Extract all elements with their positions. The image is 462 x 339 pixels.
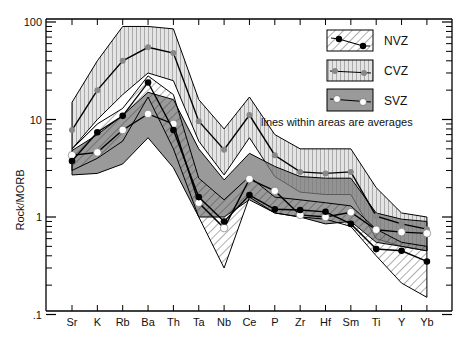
spider-diagram: .1110100 SrKRbBaThTaNbCePZrHfSmTiYYb Roc… [0,0,462,339]
black-circle-marker-icon [69,158,76,165]
gray-circle-marker-icon [399,221,405,227]
x-tick-label: Sm [343,316,360,328]
black-circle-marker-icon [94,129,101,136]
black-circle-marker-icon [170,127,177,134]
black-circle-marker-icon [424,258,431,265]
gray-circle-marker-icon [323,170,329,176]
x-tick-label: Yb [420,316,433,328]
x-tick-label: Ba [141,316,155,328]
x-tick-label: Y [398,316,406,328]
white-circle-marker-icon [246,175,254,183]
white-circle-marker-icon [360,99,367,106]
black-circle-marker-icon [398,248,405,255]
gray-circle-marker-icon [170,50,176,56]
black-circle-marker-icon [119,113,126,120]
black-circle-marker-icon [373,246,380,253]
x-tick-label: Ti [372,316,381,328]
gray-circle-marker-icon [332,68,338,74]
legend-label-cvz: CVZ [384,64,408,78]
white-circle-marker-icon [423,230,431,238]
black-circle-marker-icon [195,194,202,201]
white-circle-marker-icon [144,110,152,118]
x-tick-label: Sr [67,316,78,328]
gray-circle-marker-icon [361,70,367,76]
white-circle-marker-icon [347,208,355,216]
x-tick-label: Hf [320,316,332,328]
gray-circle-marker-icon [196,118,202,124]
white-circle-marker-icon [119,126,127,134]
legend-item-nvz: NVZ [327,30,408,51]
black-circle-marker-icon [297,207,304,214]
legend-item-svz: SVZ [327,89,407,111]
gray-circle-marker-icon [221,147,227,153]
x-tick-label: Rb [116,316,130,328]
legend-label-svz: SVZ [384,94,407,108]
black-circle-marker-icon [145,79,152,86]
white-circle-marker-icon [220,224,228,232]
y-tick-label: 10 [30,114,42,126]
gray-circle-marker-icon [94,87,100,93]
x-tick-label: Th [167,316,180,328]
x-tick-label: K [94,316,102,328]
black-circle-marker-icon [322,209,329,216]
gray-circle-marker-icon [120,58,126,64]
gray-circle-marker-icon [373,213,379,219]
y-axis-label: Rock/MORB [14,169,26,230]
x-tick-label: Nb [217,316,231,328]
x-tick-label: Zr [295,316,306,328]
legend-label-nvz: NVZ [384,34,408,48]
white-circle-marker-icon [271,187,279,195]
gray-circle-marker-icon [246,112,252,118]
white-circle-marker-icon [372,226,380,234]
white-circle-marker-icon [334,96,341,103]
gray-circle-marker-icon [348,169,354,175]
x-tick-label: Ta [193,316,206,328]
gray-circle-marker-icon [297,169,303,175]
black-circle-marker-icon [360,43,366,49]
averages-annotation: lines within areas are averages [261,116,413,128]
y-tick-label: 100 [24,16,42,28]
x-tick-label: Ce [242,316,256,328]
black-circle-marker-icon [221,218,228,225]
legend: NVZ CVZ SVZ lines within areas are avera… [261,30,413,128]
white-circle-marker-icon [398,228,406,236]
black-circle-marker-icon [348,221,355,228]
envelope-areas [72,26,427,297]
black-circle-marker-icon [336,36,342,42]
x-tick-label: P [271,316,278,328]
black-circle-marker-icon [272,206,279,213]
gray-circle-marker-icon [145,44,151,50]
black-circle-marker-icon [246,192,253,199]
y-tick-label: .1 [33,309,42,321]
legend-item-cvz: CVZ [327,60,408,81]
white-circle-marker-icon [94,149,102,157]
gray-circle-marker-icon [272,152,278,158]
gray-circle-marker-icon [69,127,75,133]
y-tick-label: 1 [36,211,42,223]
